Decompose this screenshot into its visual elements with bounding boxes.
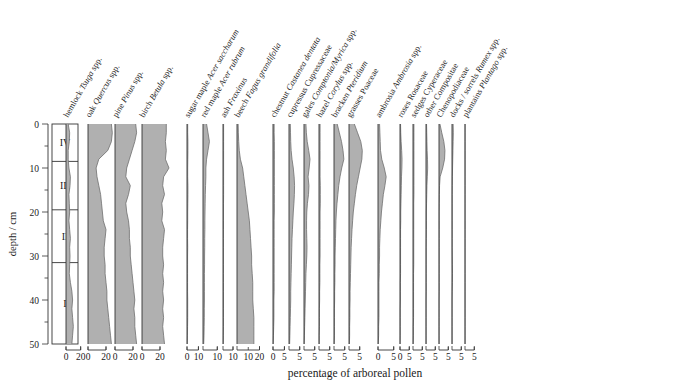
x-tick-label: 0 [64, 352, 69, 362]
x-tick-label: 20 [128, 352, 138, 362]
x-tick-label: 5 [420, 352, 425, 362]
depth-tick-label: 40 [30, 296, 40, 306]
taxon-curve-8 [273, 124, 274, 344]
depth-axis-label: depth / cm [7, 212, 18, 256]
x-tick-label: 5 [407, 352, 412, 362]
x-tick-label: 0 [271, 352, 276, 362]
x-tick-label: 0 [376, 352, 381, 362]
x-tick-label: 5 [327, 352, 332, 362]
x-tick-label: 10 [244, 352, 254, 362]
taxon-curve-6 [223, 124, 224, 344]
depth-tick-label: 20 [30, 208, 40, 218]
depth-tick-label: 30 [30, 252, 40, 262]
taxon-curve-16 [413, 124, 414, 344]
taxon-curve-4 [187, 124, 188, 344]
x-tick-label: 5 [297, 352, 302, 362]
x-tick-label: 20 [76, 352, 86, 362]
x-tick-label: 5 [446, 352, 451, 362]
x-tick-label: 0 [140, 352, 145, 362]
x-tick-label: 0 [113, 352, 118, 362]
x-tick-label: 0 [86, 352, 91, 362]
x-tick-label: 5 [312, 352, 317, 362]
x-tick-label: 10 [228, 352, 238, 362]
x-tick-label: 5 [282, 352, 287, 362]
pollen-diagram-figure: 01020304050depth / cm IVIIIIII hemlock T… [0, 0, 680, 387]
depth-tick-label: 50 [30, 340, 40, 350]
x-tick-label: 5 [472, 352, 477, 362]
x-tick-label: 5 [391, 352, 396, 362]
x-tick-label: 0 [185, 352, 190, 362]
x-tick-label: 0 [398, 352, 403, 362]
x-tick-label: 5 [433, 352, 438, 362]
x-tick-label: 20 [101, 352, 111, 362]
x-tick-label: 10 [194, 352, 204, 362]
pollen-diagram-svg: 01020304050depth / cm IVIIIIII hemlock T… [0, 0, 680, 387]
x-tick-label: 10 [213, 352, 223, 362]
x-tick-label: 20 [255, 352, 265, 362]
x-tick-label: 5 [357, 352, 362, 362]
x-tick-label: 5 [342, 352, 347, 362]
depth-tick-label: 0 [34, 120, 39, 130]
depth-tick-label: 10 [30, 164, 40, 174]
x-tick-label: 20 [155, 352, 165, 362]
x-axis-caption: percentage of arboreal pollen [288, 367, 423, 380]
x-tick-label: 5 [459, 352, 464, 362]
